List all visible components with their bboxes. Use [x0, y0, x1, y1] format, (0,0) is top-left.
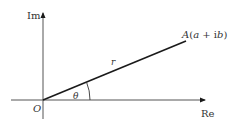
imaginary-axis-label: Im: [27, 10, 41, 21]
origin-label: O: [33, 103, 41, 114]
real-axis-label: Re: [201, 108, 215, 119]
point-label: A(a + ib): [181, 29, 227, 40]
vector-r: [43, 41, 186, 100]
length-label: r: [111, 57, 116, 67]
angle-arc: [87, 82, 91, 100]
argand-diagram: Im Re O r θ A(a + ib): [0, 0, 234, 124]
angle-label: θ: [73, 91, 79, 101]
